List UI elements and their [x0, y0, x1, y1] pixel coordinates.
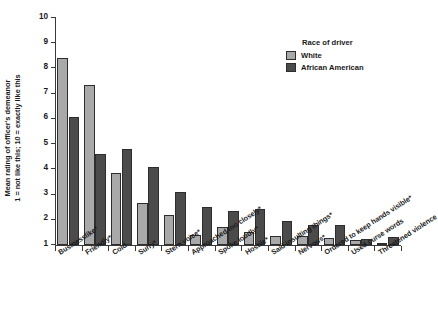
y-tick-label-9: 9: [43, 37, 48, 47]
y-tick-label-3: 3: [43, 188, 48, 198]
y-tick-label-1: 1: [43, 239, 48, 249]
legend-entries: WhiteAfrican American: [286, 51, 412, 72]
bar-group: [190, 18, 212, 245]
legend-entry: White: [286, 51, 412, 60]
y-tick-4: 4: [51, 168, 56, 169]
y-tick-8: 8: [51, 67, 56, 68]
legend-title: Race of driver: [302, 38, 412, 48]
y-tick-label-2: 2: [43, 213, 48, 223]
legend-entry: African American: [286, 63, 412, 72]
bar-white: [164, 215, 175, 245]
y-tick-2: 2: [51, 219, 56, 220]
y-tick-label-6: 6: [43, 112, 48, 122]
bar-white: [111, 173, 122, 245]
legend-swatch-icon: [286, 63, 296, 72]
legend-label: African American: [301, 63, 364, 72]
y-tick-1: 1: [51, 244, 56, 245]
legend-label: White: [301, 51, 322, 60]
y-axis-line: [55, 18, 56, 246]
y-tick-label-4: 4: [43, 163, 48, 173]
bar-white: [84, 85, 95, 245]
bar-group: [137, 18, 159, 245]
bar-group: [217, 18, 239, 245]
bar-group: [111, 18, 133, 245]
y-tick-5: 5: [51, 143, 56, 144]
bar-group: [57, 18, 79, 245]
bar-white: [137, 203, 148, 245]
bar-white: [57, 58, 68, 245]
bar-group: [164, 18, 186, 245]
y-tick-label-10: 10: [39, 12, 48, 22]
y-tick-label-5: 5: [43, 138, 48, 148]
x-tick-end: [401, 246, 402, 251]
y-axis-title-line-1: Mean rating of officer's demeanor: [3, 74, 13, 201]
y-tick-3: 3: [51, 194, 56, 195]
chart-legend: Race of driver WhiteAfrican American: [286, 38, 412, 75]
y-axis-title-line-2: 1 = not like this; 10 = exactly like thi…: [13, 74, 23, 201]
bar-african-american: [69, 117, 80, 245]
y-tick-10: 10: [51, 17, 56, 18]
bar-african-american: [148, 167, 159, 245]
bar-african-american: [122, 149, 133, 245]
bar-group: [84, 18, 106, 245]
legend-swatch-icon: [286, 51, 296, 60]
y-tick-label-8: 8: [43, 62, 48, 72]
y-tick-6: 6: [51, 118, 56, 119]
y-tick-9: 9: [51, 42, 56, 43]
y-tick-label-7: 7: [43, 87, 48, 97]
y-axis-title: Mean rating of officer's demeanor 1 = no…: [0, 30, 26, 245]
y-tick-7: 7: [51, 93, 56, 94]
